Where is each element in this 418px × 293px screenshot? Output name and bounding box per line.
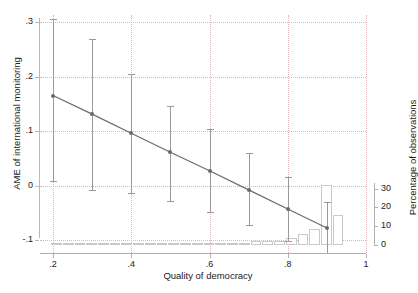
gridline-horizontal (40, 22, 366, 23)
data-point (129, 131, 133, 135)
error-bar-cap (207, 129, 214, 130)
error-bar-cap (246, 225, 253, 226)
error-bar-cap (167, 106, 174, 107)
y-axis-left-tick-label: .2 (0, 71, 33, 81)
data-point (90, 112, 94, 116)
error-bar-cap (207, 212, 214, 213)
histogram-bar (168, 243, 179, 245)
histogram-bar (86, 243, 97, 245)
gridline-vertical (366, 15, 367, 253)
histogram-bar (133, 243, 144, 245)
histogram-bar (333, 215, 344, 245)
y-axis-left-tick-label: 0 (0, 180, 33, 190)
y-axis-left-tick (35, 240, 39, 241)
data-point (168, 150, 172, 154)
x-axis-tick-label: .8 (268, 259, 308, 269)
data-point (325, 226, 329, 230)
histogram-bar (251, 241, 262, 245)
y-axis-right-tick-label: 0 (381, 239, 386, 249)
y-axis-right-tick-label: 10 (381, 220, 391, 230)
y-axis-left-tick (35, 186, 39, 187)
histogram-bar (110, 243, 121, 245)
histogram-bar (157, 243, 168, 245)
y-axis-left-tick (35, 131, 39, 132)
histogram-bar (180, 243, 191, 245)
data-point (286, 207, 290, 211)
histogram-bars (40, 183, 366, 245)
y-axis-left-tick (35, 22, 39, 23)
histogram-bar (227, 243, 238, 245)
x-axis-tick-label: 1 (346, 259, 386, 269)
y-axis-left-tick-label: .1 (0, 125, 33, 135)
histogram-bar (215, 243, 226, 245)
y-axis-right-title: Percentage of observations (407, 58, 418, 258)
data-point (51, 94, 55, 98)
gridline-horizontal (40, 77, 366, 78)
error-bar-cap (50, 181, 57, 182)
error-bar-cap (128, 74, 135, 75)
y-axis-right-tick (374, 245, 378, 246)
histogram-bar (274, 241, 285, 245)
histogram-bar (204, 243, 215, 245)
error-bar-cap (246, 153, 253, 154)
histogram-bar (298, 234, 309, 245)
error-bar-whisker (53, 19, 54, 181)
error-bar-cap (285, 177, 292, 178)
histogram-bar (145, 243, 156, 245)
histogram-bar (63, 243, 74, 245)
gridline-horizontal (40, 131, 366, 132)
error-bar-cap (285, 241, 292, 242)
histogram-bar (262, 241, 273, 246)
histogram-bar (51, 243, 62, 245)
x-axis-line (40, 253, 366, 254)
x-axis-tick (366, 254, 367, 258)
error-bar-cap (167, 201, 174, 202)
error-bar-cap (50, 19, 57, 20)
y-axis-left-tick-label: .3 (0, 16, 33, 26)
histogram-bar (98, 243, 109, 245)
histogram-bar (239, 243, 250, 245)
data-point (247, 188, 251, 192)
x-axis-tick (53, 254, 54, 258)
y-axis-right-line (374, 183, 375, 245)
y-axis-left-title: AME of international monitoring (11, 24, 22, 224)
histogram-bar (309, 229, 320, 245)
x-axis-tick-label: .2 (33, 259, 73, 269)
error-bar-cap (89, 39, 96, 40)
x-axis-tick-label: .4 (111, 259, 151, 269)
histogram-bar (121, 243, 132, 245)
data-point (208, 169, 212, 173)
y-axis-left-line (39, 18, 40, 238)
y-axis-right-tick (374, 189, 378, 190)
error-bar-cap (324, 202, 331, 203)
x-axis-tick (131, 254, 132, 258)
error-bar-cap (128, 193, 135, 194)
y-axis-right-tick-label: 20 (381, 201, 391, 211)
y-axis-right-tick (374, 226, 378, 227)
y-axis-left-tick-label: -.1 (0, 234, 33, 244)
y-axis-right-tick-label: 30 (381, 183, 391, 193)
y-axis-left-tick (35, 77, 39, 78)
x-axis-tick (288, 254, 289, 258)
histogram-bar (192, 243, 203, 245)
error-bar-cap (89, 190, 96, 191)
x-axis-tick-label: .6 (190, 259, 230, 269)
x-axis-title: Quality of democracy (0, 270, 416, 281)
y-axis-right-tick (374, 207, 378, 208)
histogram-bar (75, 243, 86, 245)
x-axis-tick (210, 254, 211, 258)
